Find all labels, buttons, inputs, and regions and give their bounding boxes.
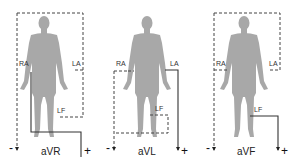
electrode-label-lf: LF	[155, 105, 163, 112]
lead-label-avl: aVL	[138, 146, 156, 157]
minus-sign: -	[206, 141, 210, 155]
minus-sign: -	[106, 141, 110, 155]
electrode-label-la: LA	[269, 60, 278, 67]
plus-sign: +	[281, 144, 288, 158]
human-body-figure	[220, 16, 268, 137]
plus-sign: +	[181, 144, 188, 158]
electrode-label-la: LA	[170, 60, 179, 67]
human-body-figure	[20, 16, 68, 137]
electrode-label-ra: RA	[19, 60, 29, 67]
minus-sign: -	[9, 141, 13, 155]
augmented-leads-diagram: RA LA LF - + aVR RA LA LF - + aVL RA	[0, 0, 297, 161]
lead-label-avf: aVF	[237, 146, 255, 157]
electrode-label-lf: LF	[254, 106, 262, 113]
arrow-down-icon	[176, 147, 180, 151]
panel-avl: RA LA LF - + aVL	[106, 16, 188, 158]
arrow-down-icon	[212, 147, 216, 151]
electrode-label-la: LA	[72, 60, 81, 67]
electrode-label-ra: RA	[116, 60, 126, 67]
arrow-down-icon	[276, 147, 280, 151]
electrode-label-lf: LF	[57, 107, 65, 114]
positive-lead-wire	[250, 116, 278, 150]
plus-sign: +	[84, 144, 91, 158]
electrode-label-ra: RA	[216, 60, 226, 67]
lead-label-avr: aVR	[41, 146, 60, 157]
human-body-figure	[123, 16, 171, 137]
panel-avr: RA LA LF - + aVR	[9, 13, 91, 158]
panel-avf: RA LA LF - + aVF	[206, 13, 288, 158]
arrow-down-icon	[15, 147, 19, 151]
arrow-down-icon	[112, 147, 116, 151]
